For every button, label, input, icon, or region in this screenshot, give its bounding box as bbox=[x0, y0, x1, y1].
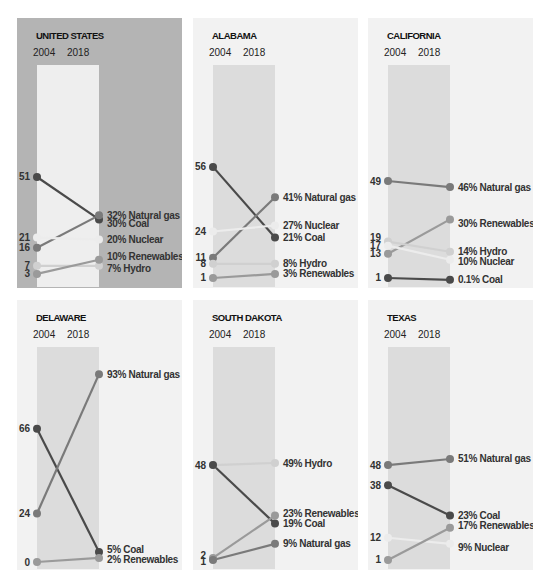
panel-south-dakota: SOUTH DAKOTA200420184849% Hydro19% Coal2… bbox=[193, 300, 358, 570]
point-2018-hydro bbox=[271, 459, 279, 467]
value-label-2004: 24 bbox=[195, 226, 207, 237]
point-2018-nuclear bbox=[446, 540, 454, 548]
point-2018-nuclear bbox=[95, 236, 103, 244]
value-label-2004: 49 bbox=[370, 176, 382, 187]
point-2004-natural-gas bbox=[384, 177, 392, 185]
value-label-2018: 21% Coal bbox=[283, 232, 326, 243]
value-label-2004: 48 bbox=[370, 460, 382, 471]
point-2018-natural-gas bbox=[95, 211, 103, 219]
value-label-2018: 17% Renewables bbox=[458, 520, 533, 531]
value-label-2018: 46% Natural gas bbox=[458, 182, 531, 193]
panel-delaware: DELAWARE20042018665% Coal2493% Natural g… bbox=[17, 300, 182, 570]
value-label-2018: 2% Renewables bbox=[107, 554, 179, 565]
panel-title: UNITED STATES bbox=[36, 30, 104, 41]
value-label-2004: 66 bbox=[19, 423, 31, 434]
point-2018-coal bbox=[271, 520, 279, 528]
value-label-2004: 12 bbox=[370, 532, 382, 543]
point-2004-renewables bbox=[33, 558, 41, 566]
point-2004-renewables bbox=[209, 274, 217, 282]
value-label-2004: 48 bbox=[195, 460, 207, 471]
point-2004-natural-gas bbox=[33, 244, 41, 252]
point-2018-natural-gas bbox=[271, 193, 279, 201]
point-2018-natural-gas bbox=[95, 370, 103, 378]
point-2004-coal bbox=[384, 274, 392, 282]
point-2018-renewables bbox=[95, 554, 103, 562]
value-label-2018: 0.1% Coal bbox=[458, 274, 503, 285]
point-2018-nuclear bbox=[271, 221, 279, 229]
point-2018-renewables bbox=[271, 270, 279, 278]
point-2018-renewables bbox=[271, 512, 279, 520]
value-label-2018: 10% Nuclear bbox=[458, 256, 515, 267]
point-2018-hydro bbox=[271, 260, 279, 268]
point-2004-nuclear bbox=[33, 234, 41, 242]
value-label-2018: 9% Natural gas bbox=[283, 538, 351, 549]
value-label-2004: 21 bbox=[19, 232, 31, 243]
point-2018-nuclear bbox=[446, 256, 454, 264]
panel-title: SOUTH DAKOTA bbox=[212, 312, 282, 323]
chart-svg: CALIFORNIA200420184946% Natural gas1330%… bbox=[368, 18, 533, 288]
year-label-2004: 2004 bbox=[209, 47, 232, 58]
value-label-2018: 9% Nuclear bbox=[458, 542, 509, 553]
point-2004-coal bbox=[33, 173, 41, 181]
point-2004-renewables bbox=[384, 556, 392, 564]
point-2004-nuclear bbox=[384, 534, 392, 542]
point-2004-renewables bbox=[33, 270, 41, 278]
point-2018-natural-gas bbox=[446, 455, 454, 463]
year-label-2004: 2004 bbox=[209, 329, 232, 340]
point-2004-hydro bbox=[33, 262, 41, 270]
value-label-2018: 27% Nuclear bbox=[283, 220, 340, 231]
point-2004-natural-gas bbox=[33, 510, 41, 518]
year-label-2018: 2018 bbox=[243, 329, 266, 340]
year-label-2018: 2018 bbox=[67, 329, 90, 340]
value-label-2004: 8 bbox=[200, 258, 206, 269]
value-label-2018: 3% Renewables bbox=[283, 268, 355, 279]
panel-alabama: ALABAMA200420185621% Coal1141% Natural g… bbox=[193, 18, 358, 288]
year-label-2004: 2004 bbox=[384, 47, 407, 58]
panel-california: CALIFORNIA200420184946% Natural gas1330%… bbox=[368, 18, 533, 288]
point-2018-renewables bbox=[446, 524, 454, 532]
value-label-2004: 24 bbox=[19, 508, 31, 519]
point-2004-renewables bbox=[384, 250, 392, 258]
value-label-2004: 1 bbox=[375, 272, 381, 283]
chart-svg: DELAWARE20042018665% Coal2493% Natural g… bbox=[17, 300, 182, 570]
value-label-2018: 30% Renewables bbox=[458, 218, 533, 229]
year-label-2018: 2018 bbox=[67, 47, 90, 58]
point-2018-natural-gas bbox=[446, 183, 454, 191]
value-label-2018: 20% Nuclear bbox=[107, 234, 164, 245]
value-label-2018: 23% Renewables bbox=[283, 508, 358, 519]
value-label-2018: 10% Renewables bbox=[107, 251, 182, 262]
panel-title: ALABAMA bbox=[212, 30, 257, 41]
chart-svg: ALABAMA200420185621% Coal1141% Natural g… bbox=[193, 18, 358, 288]
year-label-2004: 2004 bbox=[384, 329, 407, 340]
value-label-2018: 32% Natural gas bbox=[107, 210, 180, 221]
chart-svg: TEXAS200420184851% Natural gas3823% Coal… bbox=[368, 300, 533, 570]
value-label-2018: 93% Natural gas bbox=[107, 369, 180, 380]
value-label-2004: 56 bbox=[195, 161, 207, 172]
value-label-2004: 0 bbox=[24, 557, 30, 568]
value-label-2004: 38 bbox=[370, 480, 382, 491]
value-label-2018: 19% Coal bbox=[283, 518, 326, 529]
point-2018-coal bbox=[271, 234, 279, 242]
year-band bbox=[37, 65, 99, 287]
year-label-2018: 2018 bbox=[418, 329, 441, 340]
point-2004-coal bbox=[33, 425, 41, 433]
value-label-2004: 3 bbox=[24, 268, 30, 279]
panel-title: CALIFORNIA bbox=[387, 30, 441, 41]
value-label-2004: 1 bbox=[200, 272, 206, 283]
panel-title: DELAWARE bbox=[36, 312, 86, 323]
panel-title: TEXAS bbox=[387, 312, 416, 323]
value-label-2004: 17 bbox=[370, 240, 382, 251]
chart-svg: UNITED STATES200420185130% Coal1632% Nat… bbox=[17, 18, 182, 288]
point-2004-nuclear bbox=[384, 242, 392, 250]
point-2018-hydro bbox=[446, 248, 454, 256]
point-2004-nuclear bbox=[209, 228, 217, 236]
value-label-2004: 16 bbox=[19, 242, 31, 253]
value-label-2018: 49% Hydro bbox=[283, 458, 332, 469]
point-2004-coal bbox=[209, 163, 217, 171]
panel-texas: TEXAS200420184851% Natural gas3823% Coal… bbox=[368, 300, 533, 570]
value-label-2018: 51% Natural gas bbox=[458, 453, 531, 464]
panel-united-states: UNITED STATES200420185130% Coal1632% Nat… bbox=[17, 18, 182, 288]
year-label-2018: 2018 bbox=[243, 47, 266, 58]
point-2004-natural-gas bbox=[384, 461, 392, 469]
point-2018-coal bbox=[446, 512, 454, 520]
